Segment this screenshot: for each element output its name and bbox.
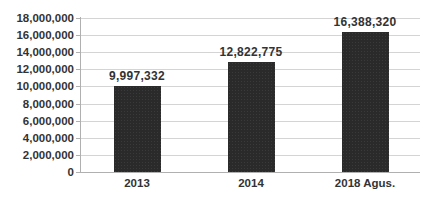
y-axis-line (80, 17, 81, 173)
bar-chart: 02,000,0004,000,0006,000,0008,000,00010,… (0, 0, 439, 198)
bar (228, 62, 275, 172)
x-category-label: 2014 (191, 177, 311, 189)
y-tick-label: 2,000,000 (23, 149, 74, 161)
y-tick-label: 4,000,000 (23, 132, 74, 144)
y-tick-label: 16,000,000 (16, 29, 74, 41)
y-tick-label: 8,000,000 (23, 98, 74, 110)
y-tick-label: 6,000,000 (23, 115, 74, 127)
bar (114, 86, 161, 172)
y-tick-label: 18,000,000 (16, 12, 74, 24)
x-axis-line (80, 172, 420, 173)
bar-value-label: 12,822,775 (191, 45, 311, 59)
bar (342, 32, 389, 172)
y-tick-label: 10,000,000 (16, 80, 74, 92)
bar-value-label: 16,388,320 (305, 15, 425, 29)
y-tick-label: 12,000,000 (16, 63, 74, 75)
x-category-label: 2018 Agus. (305, 177, 425, 189)
bar-value-label: 9,997,332 (77, 69, 197, 83)
y-tick-label: 14,000,000 (16, 46, 74, 58)
y-tick-label: 0 (68, 166, 74, 178)
x-category-label: 2013 (77, 177, 197, 189)
